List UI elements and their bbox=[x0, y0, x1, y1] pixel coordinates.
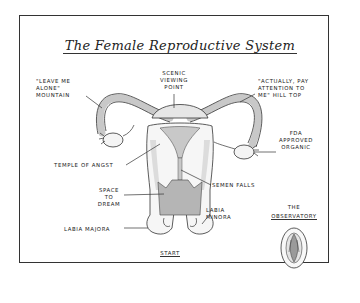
label-actually-pay-attention-hill-top: "Actually, pay attention to me" hill top bbox=[258, 78, 309, 99]
right-ovary bbox=[234, 145, 254, 159]
observatory-icon bbox=[281, 228, 307, 268]
label-the: The bbox=[266, 204, 322, 211]
label-labia-majora: Labia majora bbox=[64, 226, 110, 233]
label-space-to-dream: Space to dream bbox=[94, 187, 124, 208]
label-labia-minora: Labia minora bbox=[206, 207, 231, 221]
label-start: Start bbox=[160, 250, 180, 257]
label-fda-approved-organic: FDA approved organic bbox=[276, 130, 316, 151]
uterus-illustration bbox=[0, 0, 360, 303]
left-ovary bbox=[103, 133, 123, 147]
label-scenic-viewing-point: Scenic Viewing Point bbox=[152, 70, 196, 91]
label-temple-of-angst: Temple of angst bbox=[54, 162, 113, 169]
uterus-fundus bbox=[152, 105, 208, 119]
label-observatory: Observatory bbox=[271, 213, 317, 220]
label-leave-me-alone-mountain: "Leave me alone" mountain bbox=[36, 78, 71, 99]
label-semen-falls: Semen falls bbox=[212, 182, 255, 189]
